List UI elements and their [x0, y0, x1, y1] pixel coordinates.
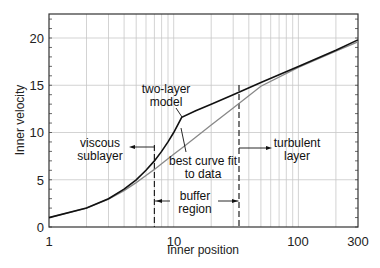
buffer-arrowhead-left: [156, 199, 162, 203]
turbulent-label-line2: layer: [284, 149, 310, 163]
best-fit-label-line2: to data: [185, 167, 222, 181]
x-tick-100: 100: [287, 234, 309, 249]
two-layer-leader: [176, 108, 182, 117]
vertical-grid: [87, 14, 336, 227]
x-axis-label: Inner position: [167, 243, 239, 257]
two-layer-label-line1: two-layer: [142, 82, 191, 96]
y-axis-label: Inner velocity: [13, 85, 27, 156]
y-tick-10: 10: [30, 125, 44, 140]
chart: two-layer model viscous sublayer best cu…: [0, 0, 380, 268]
x-tick-1: 1: [45, 234, 52, 249]
buffer-arrowhead-right: [232, 199, 238, 203]
y-tick-20: 20: [30, 31, 44, 46]
two-layer-label-line2: model: [150, 95, 183, 109]
viscous-label-line1: viscous: [80, 136, 120, 150]
viscous-label-line2: sublayer: [77, 149, 122, 163]
turbulent-label-line1: turbulent: [274, 136, 321, 150]
x-tick-300: 300: [347, 234, 369, 249]
best-fit-label-line1: best curve fit: [169, 154, 238, 168]
y-tick-5: 5: [37, 173, 44, 188]
buffer-label-line1: buffer: [180, 189, 210, 203]
y-tick-0: 0: [37, 220, 44, 235]
y-tick-15: 15: [30, 78, 44, 93]
buffer-label-line2: region: [178, 202, 211, 216]
viscous-arrowhead: [129, 145, 135, 149]
